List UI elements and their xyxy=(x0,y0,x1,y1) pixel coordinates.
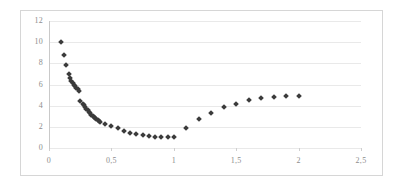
scatter-point xyxy=(64,63,70,69)
scatter-point xyxy=(158,135,164,141)
scatter-point xyxy=(221,104,227,110)
scatter-point xyxy=(134,131,140,137)
scatter-point xyxy=(59,39,65,45)
scatter-point xyxy=(196,117,202,123)
scatter-point xyxy=(171,135,177,141)
scatter-point xyxy=(127,130,133,136)
scatter-point xyxy=(146,134,152,140)
chart-figure: 024681012 00,511,522,5 xyxy=(0,0,402,186)
scatter-point xyxy=(109,123,115,129)
scatter-point xyxy=(258,95,264,101)
x-tick-label: 2 xyxy=(279,157,319,165)
scatter-point xyxy=(183,125,189,131)
scatter-point xyxy=(283,93,289,99)
chart-frame: 024681012 00,511,522,5 xyxy=(20,10,383,176)
scatter-point xyxy=(296,93,302,99)
scatter-points-layer xyxy=(49,21,361,148)
scatter-point xyxy=(115,126,121,132)
scatter-point xyxy=(121,128,127,134)
scatter-point xyxy=(208,110,214,116)
scatter-point xyxy=(61,52,67,58)
x-tick-label: 0 xyxy=(29,157,69,165)
plot-area xyxy=(49,21,361,148)
x-tick-label: 0,5 xyxy=(91,157,131,165)
x-tick-label: 1 xyxy=(154,157,194,165)
scatter-point xyxy=(233,101,239,107)
x-tick-label: 2,5 xyxy=(341,157,381,165)
scatter-point xyxy=(140,132,146,138)
scatter-point xyxy=(271,94,277,100)
scatter-point xyxy=(165,135,171,141)
x-tick-label: 1,5 xyxy=(216,157,256,165)
scatter-point xyxy=(246,98,252,104)
